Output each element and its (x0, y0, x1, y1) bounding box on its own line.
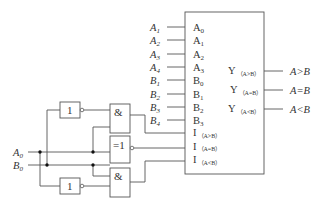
and-gate-top-symbol: & (114, 106, 123, 118)
signal-label-b0: B0 (13, 160, 23, 173)
chip-cascade-inputs: I（A>B） I（A=B） I（A<B） (193, 127, 221, 166)
wire-a0-to-not-bottom (40, 152, 60, 186)
output-label-eq: A=B (289, 85, 310, 96)
ext-label-a1: A1 (149, 22, 160, 35)
ext-label-b2: B2 (150, 89, 160, 102)
ext-label-b3: B3 (150, 102, 160, 115)
inversion-bubble-icon (80, 184, 84, 188)
ext-label-b1: B1 (150, 75, 160, 88)
ext-label-a3: A3 (149, 49, 160, 62)
junction-dot (91, 163, 94, 166)
inversion-bubble-icon (130, 146, 134, 150)
ext-label-a2: A2 (149, 35, 160, 48)
junction-dot (91, 150, 94, 153)
not-gate-top-symbol: 1 (67, 104, 73, 116)
output-label-gt: A>B (289, 66, 310, 77)
ext-label-b4: B4 (150, 115, 160, 128)
ext-label-a4: A4 (149, 62, 160, 75)
chip-data-inputs: A1 A2 A3 A4 B1 B2 B3 B4 A0 A1 A2 A3 B0 B… (149, 22, 205, 128)
output-label-lt: A<B (289, 104, 310, 115)
wire-b0-to-and-bottom (93, 165, 110, 176)
xnor-gate-symbol: =1 (113, 139, 125, 151)
inversion-bubble-icon (80, 108, 84, 112)
and-gate-bottom-symbol: & (114, 170, 123, 182)
signal-label-a0: A0 (12, 147, 23, 160)
junction-dot (45, 163, 48, 166)
junction-dot (38, 150, 41, 153)
wire-and-bottom-to-i-lt (130, 161, 185, 182)
wire-b0-to-not-top (47, 110, 60, 165)
wire-a0-to-and-top (93, 127, 110, 152)
not-gate-bottom-symbol: 1 (67, 180, 73, 192)
circuit-diagram: A1 A2 A3 A4 B1 B2 B3 B4 A0 A1 A2 A3 B0 B… (0, 0, 320, 207)
